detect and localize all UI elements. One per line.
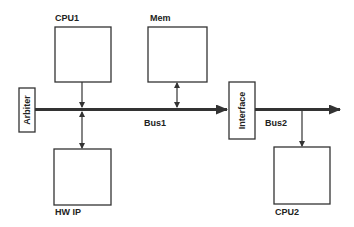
bus1-label: Bus1 bbox=[144, 118, 166, 128]
cpu2-block bbox=[274, 147, 330, 204]
bus2-label: Bus2 bbox=[265, 118, 287, 128]
cpu2-label: CPU2 bbox=[275, 207, 299, 217]
arbiter-label: Arbiter bbox=[22, 95, 32, 125]
interface-label: Interface bbox=[237, 92, 247, 130]
hwip-block bbox=[54, 149, 111, 205]
mem-block bbox=[148, 27, 207, 82]
mem-label: Mem bbox=[150, 13, 171, 23]
cpu1-block bbox=[55, 27, 111, 82]
cpu1-label: CPU1 bbox=[55, 13, 79, 23]
hwip-label: HW IP bbox=[55, 207, 81, 217]
system-bus-diagram: CPU1 Mem HW IP CPU2 Arbiter Interface Bu… bbox=[0, 0, 354, 227]
